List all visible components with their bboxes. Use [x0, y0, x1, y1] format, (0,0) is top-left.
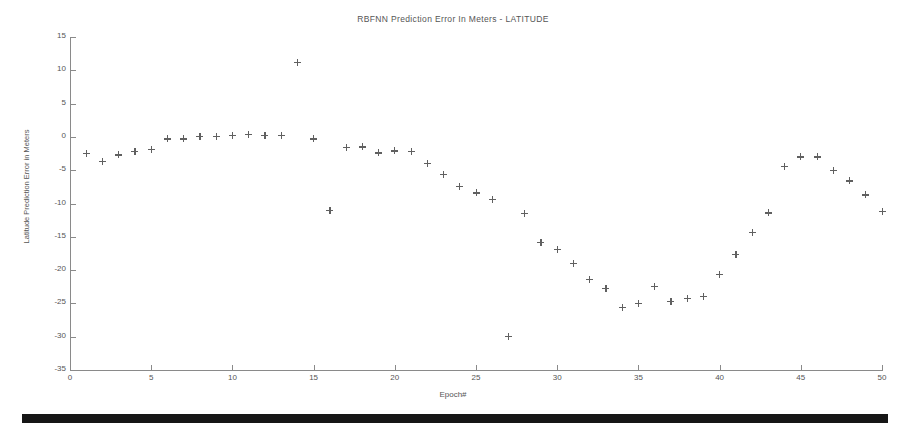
- data-point-marker: [797, 153, 804, 160]
- x-tick-label: 50: [867, 374, 897, 382]
- x-tick-label: 35: [623, 374, 653, 382]
- data-point-marker: [213, 133, 220, 140]
- data-point-marker: [651, 283, 658, 290]
- y-tick-label: -25: [30, 298, 66, 306]
- data-point-marker: [570, 260, 577, 267]
- data-point-marker: [716, 271, 723, 278]
- page-edge-bar: [22, 414, 888, 423]
- data-point-marker: [310, 135, 317, 142]
- data-point-marker: [830, 167, 837, 174]
- data-point-marker: [180, 135, 187, 142]
- data-point-marker: [586, 276, 593, 283]
- data-point-marker: [749, 229, 756, 236]
- y-tick-label: 10: [30, 65, 66, 73]
- x-tick-label: 5: [136, 374, 166, 382]
- data-point-marker: [554, 246, 561, 253]
- data-point-marker: [440, 171, 447, 178]
- data-point-marker: [489, 196, 496, 203]
- data-point-marker: [667, 298, 674, 305]
- y-tick-label: -5: [30, 165, 66, 173]
- y-axis-label: Latitude Prediction Error in Meters: [22, 107, 31, 267]
- chart-figure: RBFNN Prediction Error In Meters - LATIT…: [0, 0, 906, 431]
- data-point-marker: [343, 144, 350, 151]
- y-tick-label: 0: [30, 132, 66, 140]
- y-tick-label: -10: [30, 199, 66, 207]
- data-point-marker: [684, 295, 691, 302]
- x-axis-label: Epoch#: [0, 390, 906, 399]
- data-point-marker: [732, 251, 739, 258]
- y-tick-label: -35: [30, 365, 66, 373]
- data-point-marker: [229, 132, 236, 139]
- data-point-marker: [148, 146, 155, 153]
- y-tick-label: 5: [30, 99, 66, 107]
- data-point-marker: [781, 163, 788, 170]
- chart-title: RBFNN Prediction Error In Meters - LATIT…: [0, 14, 906, 24]
- x-tick-label: 30: [542, 374, 572, 382]
- data-point-marker: [473, 189, 480, 196]
- data-point-marker: [424, 160, 431, 167]
- data-point-marker: [131, 148, 138, 155]
- x-tick-label: 45: [786, 374, 816, 382]
- data-point-marker: [261, 132, 268, 139]
- x-tick-label: 20: [380, 374, 410, 382]
- data-point-marker: [456, 183, 463, 190]
- data-point-marker: [765, 209, 772, 216]
- x-tick-label: 10: [217, 374, 247, 382]
- data-point-marker: [846, 177, 853, 184]
- x-axis-line: [70, 370, 883, 371]
- y-tick-label: -15: [30, 232, 66, 240]
- data-point-marker: [375, 149, 382, 156]
- y-tick-label: 15: [30, 32, 66, 40]
- x-tick-label: 15: [299, 374, 329, 382]
- plot-area: [70, 37, 882, 370]
- data-point-marker: [359, 143, 366, 150]
- data-point-marker: [99, 158, 106, 165]
- data-point-marker: [814, 153, 821, 160]
- x-tick-label: 40: [705, 374, 735, 382]
- y-tick-label: -30: [30, 332, 66, 340]
- y-tick-mark: [71, 370, 76, 371]
- data-point-marker: [879, 208, 886, 215]
- x-tick-label: 0: [55, 374, 85, 382]
- data-point-marker: [115, 151, 122, 158]
- data-point-marker: [700, 293, 707, 300]
- data-point-marker: [862, 191, 869, 198]
- data-point-marker: [521, 210, 528, 217]
- data-point-marker: [391, 147, 398, 154]
- data-point-marker: [602, 285, 609, 292]
- data-point-marker: [196, 133, 203, 140]
- data-point-marker: [326, 207, 333, 214]
- data-point-marker: [505, 333, 512, 340]
- y-tick-label: -20: [30, 265, 66, 273]
- data-point-marker: [635, 300, 642, 307]
- data-point-marker: [537, 239, 544, 246]
- data-point-marker: [294, 59, 301, 66]
- data-point-marker: [164, 135, 171, 142]
- data-point-marker: [619, 304, 626, 311]
- data-point-marker: [408, 148, 415, 155]
- x-tick-label: 25: [461, 374, 491, 382]
- data-point-marker: [83, 150, 90, 157]
- data-point-marker: [278, 132, 285, 139]
- data-point-marker: [245, 131, 252, 138]
- x-tick-mark: [882, 365, 883, 370]
